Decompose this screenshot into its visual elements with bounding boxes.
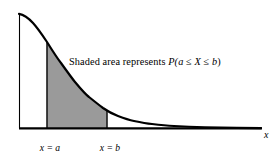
- probability-density-figure: Shaded area represents P(a ≤ X ≤ b) x = …: [0, 0, 274, 165]
- density-curve-plot: [0, 0, 274, 165]
- caption-lead: Shaded area represents: [69, 56, 166, 67]
- caption-le-2: ≤: [201, 56, 212, 67]
- caption-prob-close: ): [217, 56, 221, 67]
- caption-prob-open: P(: [168, 56, 178, 67]
- caption-le-1: ≤: [183, 56, 194, 67]
- tick-label-x-equals-a: x = a: [40, 143, 60, 153]
- x-axis-label: x: [264, 130, 268, 140]
- shaded-area-caption: Shaded area represents P(a ≤ X ≤ b): [69, 57, 221, 67]
- tick-label-x-equals-b: x = b: [100, 143, 120, 153]
